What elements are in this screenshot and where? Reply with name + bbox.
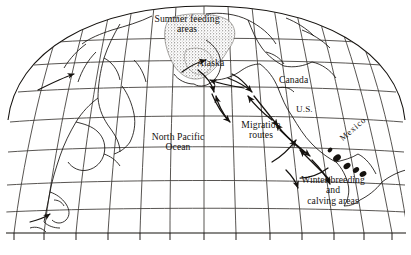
map-baseline <box>6 233 406 240</box>
breeding-lagoon-markers <box>327 147 368 178</box>
summer-feeding-shading <box>165 14 235 79</box>
coastlines-north-america <box>174 13 406 206</box>
gray-whale-migration-map: Summer feeding areas Alaska Canada U.S. … <box>0 0 411 255</box>
coastlines-asia <box>30 16 152 232</box>
map-canvas <box>0 0 411 255</box>
